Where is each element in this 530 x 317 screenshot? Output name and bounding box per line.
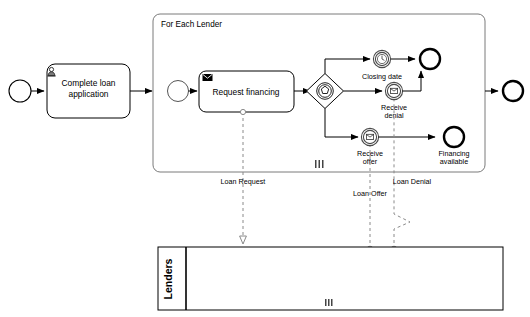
end-event-process[interactable] — [503, 81, 523, 101]
task-request-financing[interactable]: Request financing — [199, 71, 294, 112]
message-flow-label-loan-denial: Loan Denial — [393, 177, 432, 186]
message-flow-label-loan-request: Loan Request — [221, 177, 266, 186]
bpmn-canvas: For Each Lender Complete loan applicatio… — [0, 0, 530, 317]
subprocess-label: For Each Lender — [161, 20, 222, 29]
task-label-request-financing: Request financing — [212, 87, 279, 97]
end-event-no-financing[interactable] — [420, 49, 440, 69]
task-label-line1: Complete loan — [61, 78, 115, 88]
pool-lenders[interactable]: Lenders — [158, 247, 503, 310]
pool-label: Lenders — [162, 258, 174, 299]
pool-multi-instance-icon — [325, 299, 333, 306]
event-label-financing-available-2: available — [440, 157, 468, 166]
task-label-line2: application — [68, 89, 108, 99]
event-label-closing-date: Closing date — [362, 72, 402, 81]
start-event[interactable] — [9, 80, 31, 102]
message-flow-loan-request-origin — [240, 109, 245, 114]
message-flow-label-loan-offer: Loan Offer — [353, 189, 387, 198]
message-icon — [390, 88, 397, 93]
subprocess-multi-instance-icon — [315, 160, 324, 168]
task-complete-loan-application[interactable]: Complete loan application — [47, 64, 130, 118]
envelope-filled-icon — [203, 74, 213, 81]
message-icon — [366, 134, 373, 139]
bpmn-svg: For Each Lender Complete loan applicatio… — [0, 0, 530, 317]
